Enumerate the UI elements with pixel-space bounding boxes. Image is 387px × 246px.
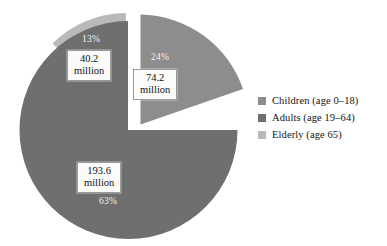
slice-value-unit-children: million [140,84,170,96]
pie-chart-figure: 24% 74.2 million 13% 40.2 million 193.6 … [0,0,387,246]
slice-percent-elderly: 13% [73,34,109,44]
slice-percent-adults: 63% [88,196,128,206]
legend-swatch-elderly-icon [258,131,266,139]
slice-value-number-children: 74.2 [140,72,170,84]
legend-swatch-adults-icon [258,114,266,122]
legend-label-children: Children (age 0–18) [272,95,358,106]
legend-label-elderly: Elderly (age 65) [272,129,342,140]
legend-swatch-children-icon [258,97,266,105]
slice-value-number-elderly: 40.2 [74,53,104,65]
legend-item-children[interactable]: Children (age 0–18) [258,92,386,109]
chart-legend: Children (age 0–18) Adults (age 19–64) E… [258,92,386,143]
legend-label-adults: Adults (age 19–64) [272,112,355,123]
slice-value-unit-elderly: million [74,65,104,77]
slice-percent-children: 24% [138,52,182,62]
legend-item-elderly[interactable]: Elderly (age 65) [258,126,386,143]
slice-value-adults: 193.6 million [77,162,121,193]
legend-item-adults[interactable]: Adults (age 19–64) [258,109,386,126]
slice-value-unit-adults: million [84,177,114,189]
pie-svg [0,0,250,246]
slice-value-elderly: 40.2 million [67,50,111,81]
slice-value-number-adults: 193.6 [84,165,114,177]
pie-plot-area: 24% 74.2 million 13% 40.2 million 193.6 … [0,0,250,246]
slice-value-children: 74.2 million [133,69,177,100]
